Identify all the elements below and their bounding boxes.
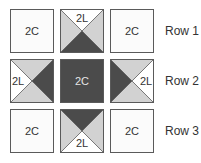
- tile-label: 2L: [140, 75, 152, 87]
- tile-r2c2: 2C: [60, 59, 104, 103]
- tile-r1c2: 2L: [60, 9, 104, 53]
- tile-r1c1: 2C: [10, 9, 54, 53]
- tile-r3c3: 2C: [110, 109, 154, 153]
- row-label-1: Row 1: [165, 24, 199, 38]
- row-label-3: Row 3: [165, 124, 199, 138]
- tile-label: 2C: [125, 25, 139, 37]
- row-label-2: Row 2: [165, 74, 199, 88]
- tile-label: 2C: [25, 125, 39, 137]
- tile-label: 2C: [125, 125, 139, 137]
- tile-label: 2C: [75, 75, 89, 87]
- tile-r2c3: 2L: [110, 59, 154, 103]
- tile-r1c3: 2C: [110, 9, 154, 53]
- tile-r3c1: 2C: [10, 109, 54, 153]
- tile-label: 2L: [76, 12, 88, 24]
- tile-label: 2L: [12, 75, 24, 87]
- tile-label: 2L: [76, 137, 88, 149]
- tile-r3c2: 2L: [60, 109, 104, 153]
- tile-label: 2C: [25, 25, 39, 37]
- tile-r2c1: 2L: [10, 59, 54, 103]
